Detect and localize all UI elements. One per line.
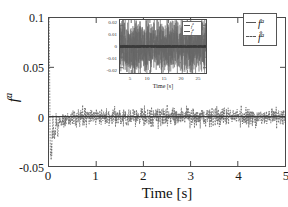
y-axis-label-superscript: a xyxy=(3,93,14,98)
x-tick-label: 5 xyxy=(271,169,288,182)
x-tick-label: 3 xyxy=(176,169,206,182)
inset-x-tick-label: 20 xyxy=(174,76,188,81)
legend-entry-f-a[interactable]: fa xyxy=(246,16,274,29)
inset-legend-label: f̂a xyxy=(191,28,194,35)
y-tick-label: 0.1 xyxy=(0,12,44,24)
inset-legend-entry-f-hat-a[interactable]: f̂a xyxy=(184,29,200,34)
inset-y-tick-label: 0.02 xyxy=(95,20,117,25)
legend-label: fa xyxy=(258,16,264,29)
x-tick-label: 1 xyxy=(81,169,111,182)
inset-x-tick-label: 15 xyxy=(157,76,171,81)
inset-x-tick-label: 5 xyxy=(123,76,137,81)
legend-label: f̂a xyxy=(258,30,264,43)
legend-entry-f-hat-a[interactable]: f̂a xyxy=(246,30,274,43)
inset-y-tick-label: -0.01 xyxy=(95,56,117,61)
inset-x-tick-label: 10 xyxy=(140,76,154,81)
x-tick-label: 2 xyxy=(128,169,158,182)
y-axis-label-base: f xyxy=(5,98,21,102)
inset-y-tick-label: 0 xyxy=(95,44,117,49)
main-legend[interactable]: fa f̂a xyxy=(243,13,277,46)
inset-legend[interactable]: fa f̂a xyxy=(182,21,202,36)
legend-line-solid-icon xyxy=(184,25,190,26)
inset-x-tick-label: 25 xyxy=(191,76,205,81)
x-tick-label: 4 xyxy=(223,169,253,182)
inset-y-tick-label: -0.02 xyxy=(95,68,117,73)
inset-x-axis-label: Time [s] xyxy=(119,83,207,89)
y-tick-label: 0.05 xyxy=(0,62,44,74)
y-axis-label: fa xyxy=(3,75,22,121)
legend-line-dashed-icon xyxy=(184,31,190,32)
x-axis-label: Time [s] xyxy=(48,185,286,202)
figure-root: 0 1 2 3 4 5 0.1 0.05 0 -0.05 Time [s] fa… xyxy=(0,0,288,207)
legend-line-solid-icon xyxy=(246,22,256,23)
y-tick-label: -0.05 xyxy=(0,162,44,174)
inset-y-tick-label: 0.01 xyxy=(95,32,117,37)
legend-line-dashed-icon xyxy=(246,36,256,37)
